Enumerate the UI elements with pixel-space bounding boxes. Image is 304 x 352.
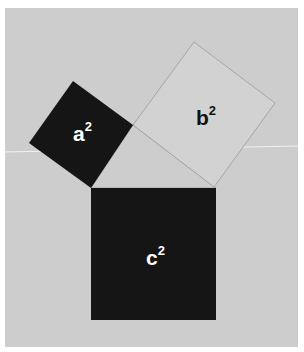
pythagoras-diagram: a2 b2 c2 (0, 0, 304, 352)
